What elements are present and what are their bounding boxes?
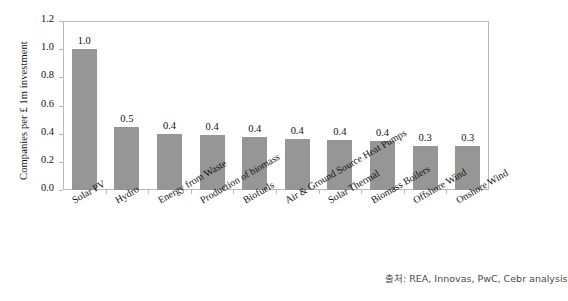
x-axis-label: Hydro — [113, 183, 141, 205]
x-axis-label: Solar PV — [70, 178, 107, 206]
x-axis-label: Energy from Waste — [156, 157, 228, 205]
source-note: 출처: REA, Innovas, PwC, Cebr analysis — [385, 271, 568, 285]
x-axis-label: Biofuels — [241, 179, 276, 205]
